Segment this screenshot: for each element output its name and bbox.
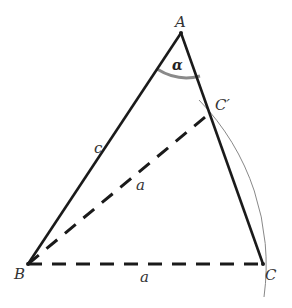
- side-ac: [181, 33, 263, 264]
- segment-bc-prime-dashed: [28, 113, 210, 264]
- vertex-b-point: [26, 262, 30, 266]
- label-a-vertex: A: [173, 13, 186, 31]
- label-c-prime-vertex: C′: [215, 96, 230, 114]
- label-side-c: c: [94, 139, 103, 157]
- triangle-diagram: A B C C′ c a a α: [0, 0, 292, 308]
- label-side-a-diagonal: a: [136, 176, 145, 194]
- vertex-a-point: [179, 31, 183, 35]
- label-b-vertex: B: [13, 265, 25, 283]
- side-ab: [28, 33, 181, 264]
- label-angle-alpha: α: [172, 57, 183, 73]
- label-c-vertex: C: [265, 266, 277, 284]
- compass-arc: [199, 100, 266, 297]
- label-side-a-bottom: a: [140, 268, 149, 286]
